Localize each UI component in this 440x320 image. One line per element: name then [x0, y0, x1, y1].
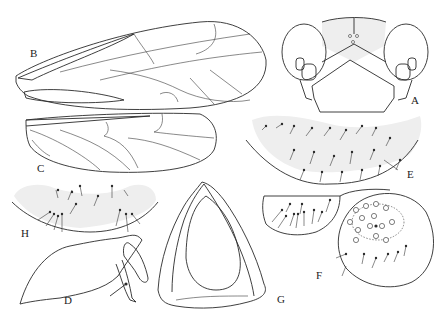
panel-label-f: F: [316, 270, 322, 281]
morphology-plate: [0, 0, 440, 320]
panel-label-c: C: [37, 163, 44, 174]
panel-label-e: E: [407, 169, 414, 180]
head-drawing: [282, 18, 428, 113]
panel-label-d: D: [64, 295, 72, 306]
panel-label-a: A: [411, 95, 419, 106]
panel-label-h: H: [21, 228, 29, 239]
sclerite-g-drawing: [158, 182, 265, 308]
hindwing-drawing: [26, 113, 216, 172]
forewing-drawing: [16, 22, 266, 110]
appendage-d-drawing: [20, 235, 148, 304]
sternite-e-drawing: [246, 116, 421, 185]
terminal-segment-f-drawing: [263, 189, 434, 287]
panel-label-g: G: [277, 294, 285, 305]
panel-label-b: B: [30, 48, 37, 59]
sternite-h-drawing: [12, 185, 158, 232]
